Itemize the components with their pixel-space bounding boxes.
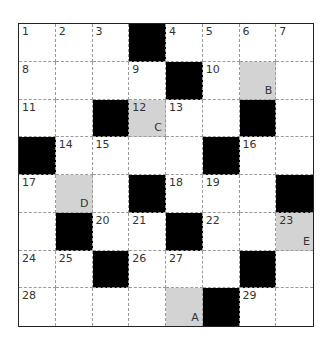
black-square bbox=[19, 137, 56, 175]
answer-cell[interactable]: 3 bbox=[93, 24, 130, 62]
answer-cell[interactable]: 27 bbox=[166, 251, 203, 289]
clue-number: 5 bbox=[206, 26, 213, 38]
answer-cell[interactable] bbox=[19, 213, 56, 251]
answer-cell[interactable] bbox=[203, 251, 240, 289]
clue-number: 22 bbox=[206, 215, 220, 227]
answer-cell[interactable]: 14 bbox=[56, 137, 93, 175]
clue-number: 17 bbox=[22, 177, 36, 189]
black-square bbox=[93, 100, 130, 138]
black-square bbox=[129, 24, 166, 62]
answer-cell[interactable] bbox=[129, 288, 166, 326]
answer-cell[interactable]: 29 bbox=[240, 288, 277, 326]
clue-number: 4 bbox=[169, 26, 176, 38]
black-square bbox=[240, 100, 277, 138]
clue-number: 19 bbox=[206, 177, 220, 189]
clue-number: 7 bbox=[279, 26, 286, 38]
answer-cell[interactable]: 1 bbox=[19, 24, 56, 62]
answer-cell[interactable] bbox=[276, 137, 313, 175]
black-square bbox=[276, 175, 313, 213]
key-letter: E bbox=[303, 236, 310, 248]
answer-cell[interactable] bbox=[276, 288, 313, 326]
answer-cell[interactable]: 26 bbox=[129, 251, 166, 289]
clue-number: 29 bbox=[243, 290, 257, 302]
shaded-answer-cell[interactable]: A bbox=[166, 288, 203, 326]
clue-number: 2 bbox=[59, 26, 66, 38]
answer-cell[interactable]: 2 bbox=[56, 24, 93, 62]
answer-cell[interactable]: 4 bbox=[166, 24, 203, 62]
answer-cell[interactable]: 17 bbox=[19, 175, 56, 213]
key-letter: B bbox=[265, 85, 273, 97]
answer-cell[interactable]: 18 bbox=[166, 175, 203, 213]
black-square bbox=[129, 175, 166, 213]
answer-cell[interactable] bbox=[93, 175, 130, 213]
black-square bbox=[166, 213, 203, 251]
answer-cell[interactable]: 20 bbox=[93, 213, 130, 251]
black-square bbox=[56, 213, 93, 251]
clue-number: 1 bbox=[22, 26, 29, 38]
answer-cell[interactable]: 7 bbox=[276, 24, 313, 62]
answer-cell[interactable] bbox=[240, 175, 277, 213]
clue-number: 3 bbox=[96, 26, 103, 38]
answer-cell[interactable]: 9 bbox=[129, 62, 166, 100]
answer-cell[interactable]: 15 bbox=[93, 137, 130, 175]
black-square bbox=[240, 251, 277, 289]
clue-number: 11 bbox=[22, 102, 36, 114]
shaded-answer-cell[interactable]: D bbox=[56, 175, 93, 213]
clue-number: 23 bbox=[279, 215, 293, 227]
clue-number: 8 bbox=[22, 64, 29, 76]
answer-cell[interactable] bbox=[56, 288, 93, 326]
answer-cell[interactable]: 28 bbox=[19, 288, 56, 326]
answer-cell[interactable] bbox=[56, 62, 93, 100]
clue-number: 26 bbox=[132, 253, 146, 265]
answer-cell[interactable] bbox=[166, 137, 203, 175]
answer-cell[interactable]: 10 bbox=[203, 62, 240, 100]
black-square bbox=[203, 288, 240, 326]
answer-cell[interactable]: 21 bbox=[129, 213, 166, 251]
clue-number: 13 bbox=[169, 102, 183, 114]
clue-number: 27 bbox=[169, 253, 183, 265]
answer-cell[interactable] bbox=[276, 251, 313, 289]
answer-cell[interactable]: 24 bbox=[19, 251, 56, 289]
answer-cell[interactable] bbox=[93, 62, 130, 100]
black-square bbox=[166, 62, 203, 100]
answer-cell[interactable] bbox=[56, 100, 93, 138]
answer-cell[interactable]: 6 bbox=[240, 24, 277, 62]
clue-number: 14 bbox=[59, 139, 73, 151]
answer-cell[interactable] bbox=[203, 100, 240, 138]
answer-cell[interactable]: 11 bbox=[19, 100, 56, 138]
answer-cell[interactable]: 25 bbox=[56, 251, 93, 289]
black-square bbox=[93, 251, 130, 289]
key-letter: D bbox=[80, 198, 88, 210]
clue-number: 20 bbox=[96, 215, 110, 227]
clue-number: 16 bbox=[243, 139, 257, 151]
clue-number: 25 bbox=[59, 253, 73, 265]
clue-number: 15 bbox=[96, 139, 110, 151]
black-square bbox=[203, 137, 240, 175]
key-letter: C bbox=[154, 122, 162, 134]
clue-number: 18 bbox=[169, 177, 183, 189]
clue-number: 21 bbox=[132, 215, 146, 227]
answer-cell[interactable]: 13 bbox=[166, 100, 203, 138]
clue-number: 10 bbox=[206, 64, 220, 76]
answer-cell[interactable] bbox=[276, 62, 313, 100]
answer-cell[interactable]: 8 bbox=[19, 62, 56, 100]
clue-number: 24 bbox=[22, 253, 36, 265]
clue-number: 12 bbox=[132, 102, 146, 114]
answer-cell[interactable]: 19 bbox=[203, 175, 240, 213]
shaded-answer-cell[interactable]: B bbox=[240, 62, 277, 100]
answer-cell[interactable]: 16 bbox=[240, 137, 277, 175]
key-letter: A bbox=[191, 312, 199, 324]
answer-cell[interactable] bbox=[276, 100, 313, 138]
answer-cell[interactable] bbox=[93, 288, 130, 326]
answer-cell[interactable]: 22 bbox=[203, 213, 240, 251]
answer-cell[interactable] bbox=[240, 213, 277, 251]
answer-cell[interactable]: 5 bbox=[203, 24, 240, 62]
shaded-answer-cell[interactable]: 12C bbox=[129, 100, 166, 138]
answer-cell[interactable] bbox=[129, 137, 166, 175]
clue-number: 6 bbox=[243, 26, 250, 38]
clue-number: 28 bbox=[22, 290, 36, 302]
crossword-grid: 12345678910B1112C1314151617D181920212223… bbox=[18, 23, 314, 327]
clue-number: 9 bbox=[132, 64, 139, 76]
shaded-answer-cell[interactable]: 23E bbox=[276, 213, 313, 251]
